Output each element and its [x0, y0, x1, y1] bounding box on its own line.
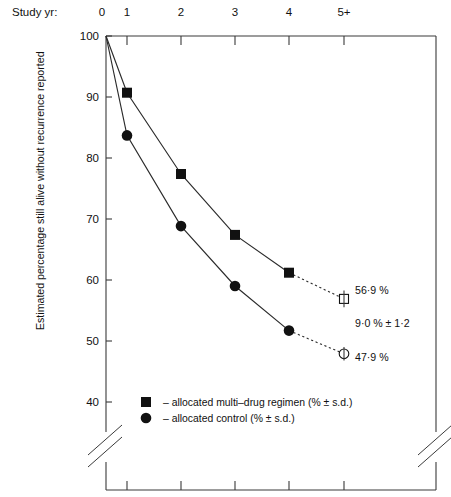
- control-marker-yr3: [230, 281, 241, 292]
- multi-drug-dashed-line: [289, 273, 344, 299]
- y-tick-label-90: 90: [86, 91, 99, 103]
- legend-label-multi-drug: – allocated multi–drug regimen (% ± s.d.…: [163, 397, 352, 408]
- multi-drug-marker-yr2: [176, 169, 186, 179]
- x-tick-label-4: 4: [286, 6, 293, 18]
- control-endpoint-value: 47·9 %: [355, 351, 389, 363]
- y-tick-label-40: 40: [86, 396, 99, 408]
- series-allocated-control: [106, 36, 349, 361]
- multi-drug-solid-line: [106, 36, 289, 273]
- multi-drug-marker-yr3: [230, 230, 240, 240]
- y-tick-label-60: 60: [86, 274, 99, 286]
- x-tick-label-1: 1: [124, 6, 130, 18]
- absolute-difference-value: 9·0 % ± 1·2: [355, 317, 410, 329]
- y-tick-label-50: 50: [86, 335, 99, 347]
- control-marker-yr1: [122, 130, 133, 141]
- endpoint-annotations: 56·9 % 9·0 % ± 1·2 47·9 %: [355, 284, 410, 363]
- legend-label-control: – allocated control (% ± s.d.): [163, 413, 295, 424]
- y-tick-label-80: 80: [86, 152, 99, 164]
- x-tick-label-2: 2: [178, 6, 184, 18]
- x-axis-top-labels: Study yr: 0 1 2 3 4 5+: [12, 6, 351, 18]
- x-tick-label-5plus: 5+: [337, 6, 350, 18]
- y-axis-break-left: [88, 425, 122, 467]
- x-axis-caption: Study yr:: [12, 6, 57, 18]
- x-axis-top-ticks: [127, 36, 344, 45]
- y-axis-title-text: Estimated percentage still alive without…: [34, 51, 46, 330]
- legend-filled-square-icon: [141, 397, 151, 407]
- survival-curve-figure: Estimated percentage still alive without…: [0, 0, 451, 497]
- treatment-endpoint-value: 56·9 %: [355, 284, 389, 296]
- chart-canvas: Estimated percentage still alive without…: [0, 0, 451, 497]
- control-marker-yr2: [176, 221, 187, 232]
- y-axis-title: Estimated percentage still alive without…: [34, 51, 46, 330]
- legend: – allocated multi–drug regimen (% ± s.d.…: [141, 397, 353, 424]
- y-tick-label-70: 70: [86, 213, 99, 225]
- control-dashed-line: [289, 331, 344, 354]
- x-tick-label-3: 3: [232, 6, 238, 18]
- control-solid-line: [106, 36, 289, 331]
- x-tick-label-0: 0: [99, 6, 105, 18]
- multi-drug-marker-yr4: [284, 268, 294, 278]
- y-axis-ticks: 100 90 80 70 60 50 40: [80, 30, 112, 408]
- x-axis-bottom-ticks: [127, 481, 344, 490]
- y-axis-break-right: [418, 425, 451, 467]
- legend-filled-circle-icon: [141, 413, 152, 424]
- series-multi-drug-regimen: [106, 36, 349, 307]
- control-marker-yr4: [284, 325, 295, 336]
- multi-drug-marker-yr1: [122, 88, 132, 98]
- y-tick-label-100: 100: [80, 30, 99, 42]
